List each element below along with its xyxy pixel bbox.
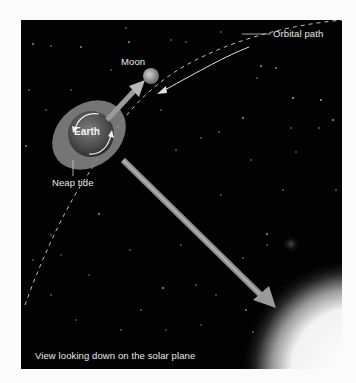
- earth-label: Earth: [74, 126, 100, 137]
- diagram-panel: Moon Orbital path Earth Neap tide View l…: [21, 20, 342, 369]
- moon-label: Moon: [121, 56, 145, 67]
- sun-pull-arrow: [123, 160, 276, 308]
- orbit-direction-arrowhead: [157, 86, 167, 94]
- caption: View looking down on the solar plane: [35, 350, 195, 361]
- sun: [241, 258, 342, 369]
- orbital-path-label: Orbital path: [273, 28, 323, 39]
- space-scene: [21, 20, 342, 369]
- moon-pull-arrow: [107, 80, 145, 120]
- moon: [143, 68, 159, 84]
- orbit-direction-arrow: [163, 47, 249, 91]
- distant-star-glow: [282, 235, 300, 253]
- neap-tide-label: Neap tide: [52, 177, 94, 188]
